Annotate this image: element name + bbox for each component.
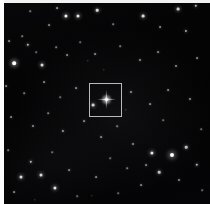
star-field-viewer [0, 0, 210, 204]
sky-image [4, 3, 210, 204]
target-reticle-box[interactable] [89, 83, 122, 117]
